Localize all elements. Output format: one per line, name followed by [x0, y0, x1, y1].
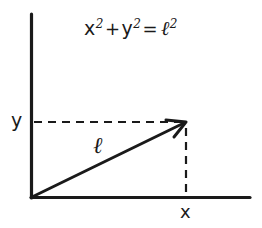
vector-shaft	[32, 123, 185, 198]
x-axis-label: x	[180, 203, 191, 221]
equation-equals-operator: =	[141, 18, 159, 39]
equation-label: x2+y2=ℓ2	[0, 18, 262, 38]
equation-x-term: x	[84, 17, 96, 39]
equation-ell-exponent: 2	[170, 17, 178, 31]
equation-y-term: y	[122, 17, 134, 39]
vector-magnitude-label: ℓ	[93, 134, 103, 157]
equation-ell-term: ℓ	[159, 16, 170, 40]
equation-plus-operator: +	[104, 18, 122, 39]
y-axis-label: y	[11, 111, 22, 130]
vector-diagram-figure: x2+y2=ℓ2 y x ℓ	[0, 0, 262, 228]
equation-x-exponent: 2	[96, 17, 104, 31]
